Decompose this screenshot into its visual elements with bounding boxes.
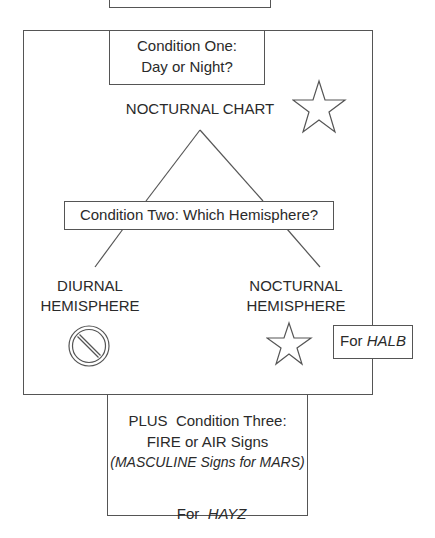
star-icon: [266, 321, 314, 367]
condition-three-line3: (MASCULINE Signs for MARS): [107, 452, 308, 472]
nocturnal-line1: NOCTURNAL: [236, 276, 356, 296]
nocturnal-chart-label: NOCTURNAL CHART: [110, 99, 290, 119]
diurnal-line1: DIURNAL: [40, 276, 140, 296]
hayz-prefix: For: [177, 505, 208, 522]
prohibited-icon: [66, 323, 112, 369]
halb-name: HALB: [367, 332, 406, 349]
nocturnal-line2: HEMISPHERE: [236, 296, 356, 316]
condition-one-line2: Day or Night?: [109, 57, 265, 77]
condition-three-line2: FIRE or AIR Signs: [107, 432, 308, 452]
hayz-label: For HAYZ: [107, 484, 308, 524]
star-icon: [292, 79, 348, 135]
halb-label: For HALB: [333, 331, 413, 351]
diurnal-line2: HEMISPHERE: [40, 296, 140, 316]
condition-three-line1: PLUS Condition Three:: [107, 411, 308, 431]
hayz-name: HAYZ: [208, 505, 247, 522]
condition-one-line1: Condition One:: [109, 36, 265, 56]
halb-prefix: For: [340, 332, 367, 349]
condition-two-label: Condition Two: Which Hemisphere?: [64, 205, 334, 225]
